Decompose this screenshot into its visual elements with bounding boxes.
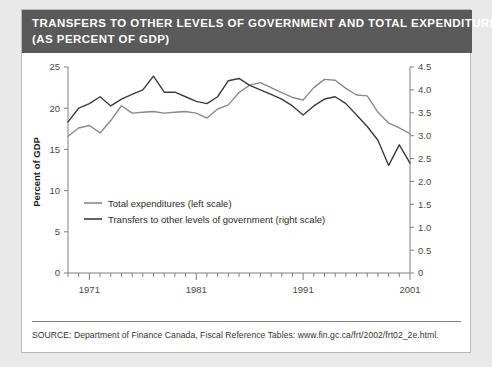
x-axis-tick-label: 1981 — [186, 284, 207, 295]
legend-label-2: Transfers to other levels of government … — [108, 214, 325, 225]
y-axis-right-tick-label: 4.0 — [418, 84, 431, 95]
y-axis-right-tick-label: 0.5 — [418, 245, 431, 256]
figure-title-bar: TRANSFERS TO OTHER LEVELS OF GOVERNMENT … — [22, 10, 472, 53]
x-axis-tick-label: 1991 — [293, 284, 314, 295]
y-axis-right-tick-label: 0 — [418, 267, 423, 278]
chart-plot-area: 051015202500.51.01.52.02.53.03.54.04.519… — [22, 53, 472, 315]
y-axis-left-tick-label: 15 — [49, 144, 60, 155]
y-axis-left-tick-label: 0 — [55, 267, 60, 278]
legend-label-1: Total expenditures (left scale) — [108, 198, 232, 209]
y-axis-right-tick-label: 1.0 — [418, 222, 431, 233]
source-note: SOURCE: Department of Finance Canada, Fi… — [32, 330, 464, 340]
y-axis-right-tick-label: 2.0 — [418, 176, 431, 187]
y-axis-left-tick-label: 10 — [49, 185, 60, 196]
x-axis-tick-label: 2001 — [399, 284, 420, 295]
y-axis-left-tick-label: 25 — [49, 61, 60, 72]
series-line-1 — [68, 79, 410, 136]
y-axis-right-tick-label: 3.0 — [418, 130, 431, 141]
y-axis-right-tick-label: 2.5 — [418, 153, 431, 164]
y-axis-left-tick-label: 20 — [49, 103, 60, 114]
x-axis-tick-label: 1971 — [79, 284, 100, 295]
y-axis-right-tick-label: 1.5 — [418, 199, 431, 210]
source-divider — [32, 321, 461, 322]
series-line-2 — [68, 76, 410, 165]
y-axis-title: Percent of GDP — [31, 136, 42, 206]
figure-title-line-2: (AS PERCENT OF GDP) — [32, 32, 472, 48]
y-axis-right-tick-label: 4.5 — [418, 61, 431, 72]
figure-panel: TRANSFERS TO OTHER LEVELS OF GOVERNMENT … — [21, 9, 471, 353]
y-axis-left-tick-label: 5 — [55, 226, 60, 237]
line-chart: 051015202500.51.01.52.02.53.03.54.04.519… — [22, 53, 472, 315]
figure-title-line-1: TRANSFERS TO OTHER LEVELS OF GOVERNMENT … — [32, 16, 472, 32]
y-axis-right-tick-label: 3.5 — [418, 107, 431, 118]
